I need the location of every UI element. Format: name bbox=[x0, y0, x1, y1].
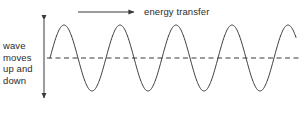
energy-transfer-label: energy transfer bbox=[144, 6, 209, 18]
wave-motion-label: wave moves up and down bbox=[3, 40, 33, 86]
wave-diagram-canvas bbox=[0, 0, 302, 118]
sine-wave-curve bbox=[50, 25, 296, 91]
wave-diagram: energy transfer wave moves up and down bbox=[0, 0, 302, 118]
